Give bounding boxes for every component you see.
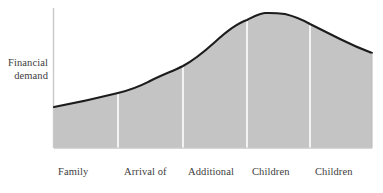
stage-label-line-2: grown xyxy=(315,192,342,193)
y-axis-label-line-1: Financial xyxy=(8,57,48,68)
stage-label-children-maturing: Children maturing xyxy=(252,152,291,193)
stage-label-line-1: Children xyxy=(315,166,353,177)
stage-label-line-2: children xyxy=(188,192,223,193)
stage-label-line-1: Children xyxy=(252,166,290,177)
stage-label-family-formation: Family formation xyxy=(58,152,100,193)
stage-label-line-2: formation xyxy=(58,192,100,193)
financial-demand-area-chart: Financial demand Family formation Arriva… xyxy=(0,0,383,193)
stage-label-group: Family formation Arrival of children Add… xyxy=(0,152,383,193)
stage-label-line-1: Additional xyxy=(188,166,234,177)
stage-label-additional-children: Additional children xyxy=(188,152,234,193)
y-axis-label-line-2: demand xyxy=(14,70,48,81)
stage-label-arrival-of-children: Arrival of children xyxy=(124,152,167,193)
stage-label-line-2: maturing xyxy=(252,192,291,193)
y-axis-label: Financial demand xyxy=(0,57,48,82)
stage-label-line-1: Family xyxy=(58,166,88,177)
demand-area-fill xyxy=(54,13,372,148)
stage-label-line-1: Arrival of xyxy=(124,166,167,177)
stage-label-children-grown: Children grown xyxy=(315,152,353,193)
stage-label-line-2: children xyxy=(124,192,159,193)
